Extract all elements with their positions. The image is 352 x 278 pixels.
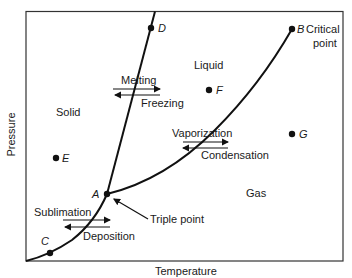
x-axis-label: Temperature bbox=[155, 266, 217, 277]
region-liquid: Liquid bbox=[194, 60, 223, 71]
triple-point-label: Triple point bbox=[150, 214, 204, 225]
point-d bbox=[148, 25, 154, 31]
label-point-c: C bbox=[41, 236, 49, 247]
label-point-g: G bbox=[299, 129, 308, 140]
label-point-b: B bbox=[297, 24, 304, 35]
label-point-d: D bbox=[158, 23, 166, 34]
point-c bbox=[47, 250, 53, 256]
point-b bbox=[289, 26, 295, 32]
condensation-label: Condensation bbox=[201, 150, 269, 161]
triple-point-pointer bbox=[114, 199, 148, 219]
vaporization-curve bbox=[107, 29, 292, 194]
deposition-label: Deposition bbox=[83, 231, 135, 242]
sublimation-label: Sublimation bbox=[34, 207, 91, 218]
point-f bbox=[206, 87, 212, 93]
point-e bbox=[53, 155, 59, 161]
critical-point-label-2: point bbox=[313, 38, 337, 49]
point-g bbox=[289, 131, 295, 137]
label-point-e: E bbox=[62, 153, 69, 164]
region-solid: Solid bbox=[56, 107, 80, 118]
point-a bbox=[104, 191, 110, 197]
vaporization-label: Vaporization bbox=[172, 128, 232, 139]
critical-point-label-1: Critical bbox=[306, 24, 340, 35]
region-gas: Gas bbox=[246, 188, 266, 199]
label-point-f: F bbox=[216, 85, 223, 96]
label-point-a: A bbox=[92, 189, 99, 200]
melting-label: Melting bbox=[121, 75, 156, 86]
freezing-label: Freezing bbox=[141, 98, 184, 109]
y-axis-label: Pressure bbox=[6, 110, 17, 160]
